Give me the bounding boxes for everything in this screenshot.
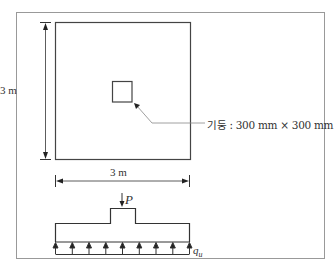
width-dimension-label: 3 m <box>110 166 127 178</box>
pressure-subscript: u <box>199 250 203 259</box>
footing-section <box>53 193 192 255</box>
height-dimension-label: 3 m <box>0 84 17 96</box>
footing-plan <box>56 23 191 160</box>
column-leader <box>134 103 205 123</box>
pressure-qu-label: qu <box>193 244 203 259</box>
dimension-vertical <box>40 23 51 160</box>
figure-frame <box>17 13 325 259</box>
pressure-arrows <box>53 243 192 255</box>
column-size-label: 기둥 : 300 mm × 300 mm <box>207 117 333 132</box>
footing-diagram <box>0 0 336 280</box>
column-plan <box>113 82 133 103</box>
load-p-label: P <box>125 192 133 208</box>
